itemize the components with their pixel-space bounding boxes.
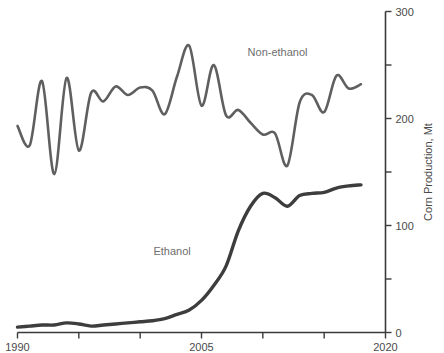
axes-layer <box>18 12 392 339</box>
labels-layer: 1990200520200100200300Corn Production, M… <box>5 6 434 353</box>
y-axis-tick-label: 100 <box>396 220 414 232</box>
corn-production-chart: 1990200520200100200300Corn Production, M… <box>0 0 444 353</box>
series-label-ethanol: Ethanol <box>153 245 190 257</box>
y-axis-tick-label: 0 <box>396 327 402 339</box>
series-label-non-ethanol: Non-ethanol <box>248 46 308 58</box>
x-axis-tick-label: 2020 <box>373 341 397 353</box>
series-line-non-ethanol <box>18 45 361 174</box>
y-axis-title: Corn Production, Mt <box>422 123 434 221</box>
chart-plot-area: 1990200520200100200300Corn Production, M… <box>0 0 444 353</box>
y-axis-tick-label: 200 <box>396 113 414 125</box>
series-layer <box>18 45 361 327</box>
y-axis-tick-label: 300 <box>396 6 414 18</box>
x-axis-tick-label: 2005 <box>189 341 213 353</box>
x-axis-tick-label: 1990 <box>5 341 29 353</box>
